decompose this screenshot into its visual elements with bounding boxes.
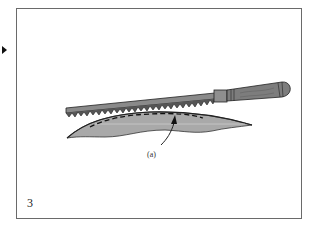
saw-ferrule	[214, 90, 227, 102]
step-number: 3	[27, 196, 33, 211]
illustration	[0, 0, 317, 230]
saw	[66, 82, 290, 117]
leaf-shape	[67, 112, 252, 138]
saw-handle	[227, 82, 290, 101]
callout-label: (a)	[147, 150, 156, 159]
